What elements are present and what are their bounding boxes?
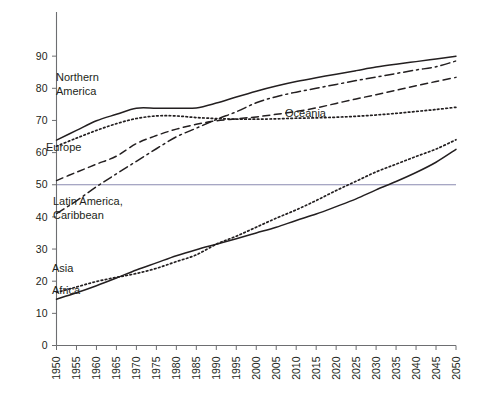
chart-canvas: 0102030405060708090 19501955196019651970…	[0, 0, 478, 397]
x-tick-label: 1990	[210, 356, 222, 380]
x-tick-label: 2010	[290, 356, 302, 380]
x-tick-label: 2040	[410, 356, 422, 380]
series-label-africa: Africa	[52, 284, 81, 296]
x-tick-label: 1955	[70, 356, 82, 380]
series-label-line: Asia	[52, 262, 74, 274]
x-tick-label: 1985	[190, 356, 202, 380]
y-tick-label: 40	[36, 211, 48, 223]
series-label-line: Oceania	[285, 107, 327, 119]
y-tick-label: 10	[36, 307, 48, 319]
x-tick-label: 2000	[250, 356, 262, 380]
series-label-line: Latin America,	[53, 195, 123, 207]
x-tick-label: 2020	[330, 356, 342, 380]
series-label-line: Africa	[52, 284, 81, 296]
y-tick-label: 70	[36, 114, 48, 126]
x-tick-label: 2005	[270, 356, 282, 380]
x-tick-label: 1965	[110, 356, 122, 380]
line-chart: 0102030405060708090 19501955196019651970…	[0, 0, 478, 397]
series-label-europe: Europe	[46, 141, 81, 153]
x-tick-label: 1995	[230, 356, 242, 380]
y-tick-label: 50	[36, 178, 48, 190]
y-tick-label: 80	[36, 82, 48, 94]
x-tick-label: 2045	[430, 356, 442, 380]
x-tick-label: 1975	[150, 356, 162, 380]
series-label-asia: Asia	[52, 262, 74, 274]
x-tick-label: 2025	[350, 356, 362, 380]
y-tick-label: 20	[36, 275, 48, 287]
series-label-line: Northern	[56, 71, 99, 83]
y-tick-label: 0	[42, 339, 48, 351]
x-tick-label: 1950	[50, 356, 62, 380]
x-tick-label: 2050	[450, 356, 462, 380]
x-tick-label: 1970	[130, 356, 142, 380]
y-tick-label: 90	[36, 50, 48, 62]
x-tick-label: 1980	[170, 356, 182, 380]
series-label-oceania: Oceania	[285, 107, 327, 119]
x-tick-label: 2015	[310, 356, 322, 380]
x-tick-label: 1960	[90, 356, 102, 380]
x-tick-label: 2035	[390, 356, 402, 380]
series-label-line: Caribbean	[53, 209, 104, 221]
y-tick-label: 30	[36, 243, 48, 255]
series-label-line: Europe	[46, 141, 81, 153]
series-label-northern-america: NorthernAmerica	[56, 71, 99, 97]
x-tick-label: 2030	[370, 356, 382, 380]
series-label-line: America	[56, 85, 97, 97]
